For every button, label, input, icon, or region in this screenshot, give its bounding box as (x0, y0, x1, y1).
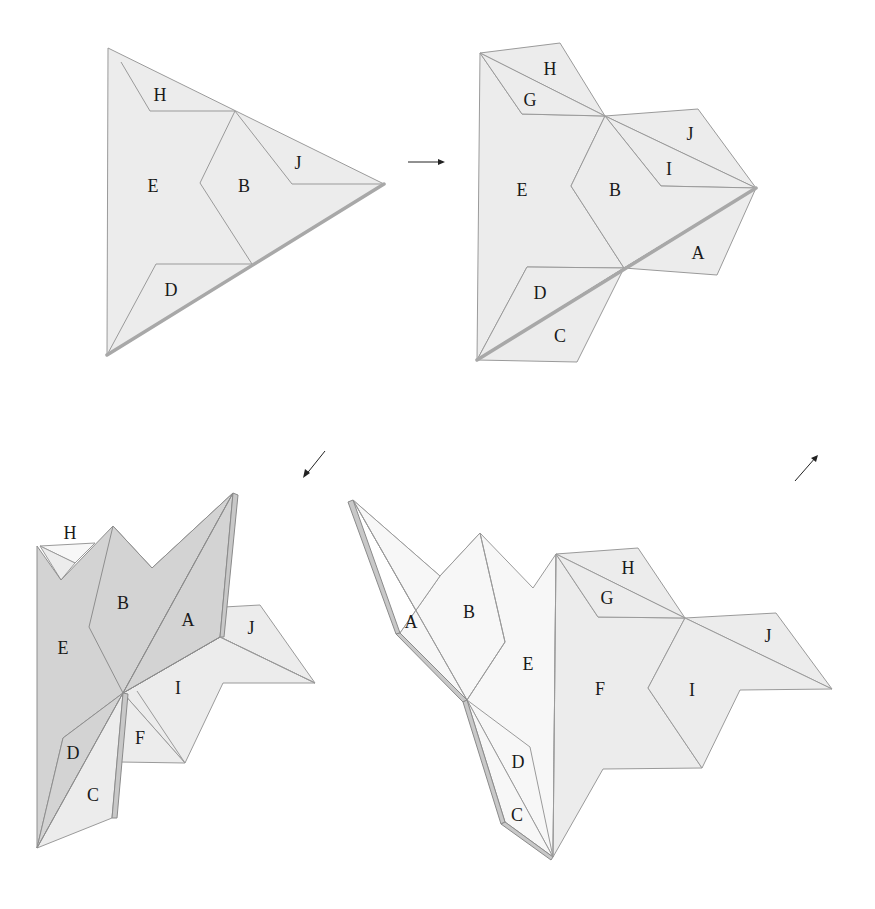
label-b: B (609, 180, 621, 200)
label-f: F (135, 728, 145, 748)
label-i: I (175, 678, 181, 698)
arrow-up-right-icon (795, 455, 818, 481)
label-b: B (238, 176, 250, 196)
folding-diagram: H E B J D H G J I E B A D C (0, 0, 875, 909)
label-c: C (511, 805, 523, 825)
label-g: G (524, 90, 537, 110)
label-b: B (463, 602, 475, 622)
label-b: B (117, 593, 129, 613)
figure-step-4: H G A B J E F I D C (348, 500, 832, 860)
label-a: A (692, 243, 705, 263)
label-d: D (67, 743, 80, 763)
label-j: J (294, 153, 301, 173)
label-e: E (148, 176, 159, 196)
figure-step-3: H B A E J I D F C (37, 493, 315, 848)
label-j: J (686, 124, 693, 144)
label-i: I (689, 680, 695, 700)
label-h: H (154, 85, 167, 105)
label-c: C (554, 326, 566, 346)
triangle-outline (107, 48, 384, 355)
label-d: D (534, 283, 547, 303)
label-c: C (87, 785, 99, 805)
label-e: E (523, 654, 534, 674)
label-g: G (601, 588, 614, 608)
label-a: A (405, 612, 418, 632)
label-j: J (764, 626, 771, 646)
label-j: J (247, 618, 254, 638)
label-f: F (595, 679, 605, 699)
label-e: E (58, 638, 69, 658)
label-a: A (182, 610, 195, 630)
label-h: H (544, 59, 557, 79)
label-i: I (666, 159, 672, 179)
figure-step-1: H E B J D (107, 48, 384, 355)
label-h: H (622, 558, 635, 578)
label-h: H (64, 523, 77, 543)
arrow-down-left-icon (303, 451, 325, 478)
figure-step-2: H G J I E B A D C (477, 43, 756, 362)
label-d: D (165, 280, 178, 300)
arrow-right-icon (408, 159, 445, 165)
label-e: E (517, 180, 528, 200)
label-d: D (512, 752, 525, 772)
